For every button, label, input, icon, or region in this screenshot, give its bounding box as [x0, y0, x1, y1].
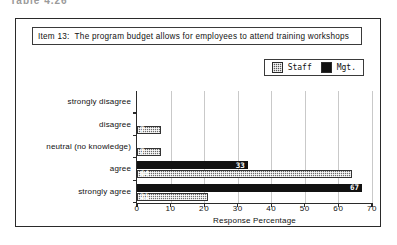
y-category-label: neutral (no knowledge): [46, 143, 131, 151]
bar-row: neutral (no knowledge)7: [137, 136, 372, 158]
bar-staff: 64: [137, 170, 352, 178]
figure-frame: Item 13: The program budget allows for e…: [15, 18, 381, 227]
bar-value-label: 67: [350, 184, 362, 192]
legend-swatch-mgt-icon: [321, 62, 332, 73]
bar-row: agree3364: [137, 158, 372, 180]
x-tick-label: 30: [233, 204, 243, 213]
x-tick-label: 70: [367, 204, 377, 213]
x-tick-label: 40: [266, 204, 276, 213]
item-number-label: Item 13:: [38, 32, 70, 41]
legend-label-mgt: Mgt.: [337, 63, 356, 72]
plot-area: strongly disagreedisagree7neutral (no kn…: [137, 91, 372, 203]
x-tick-label: 20: [199, 204, 209, 213]
x-tick-label: 50: [300, 204, 310, 213]
bar-staff: 21: [137, 193, 208, 201]
bar-staff: 7: [137, 126, 161, 134]
bar-mgt: 67: [137, 184, 362, 192]
item-statement-box: Item 13: The program budget allows for e…: [32, 27, 362, 45]
bar-mgt: 33: [137, 161, 248, 169]
y-category-label: disagree: [99, 121, 131, 129]
x-tick-label: 60: [333, 204, 343, 213]
legend-entry-mgt: Mgt.: [321, 62, 356, 73]
bar-row: strongly disagree: [137, 91, 372, 113]
y-category-label: agree: [110, 165, 131, 173]
bar-value-label: 7: [140, 148, 145, 156]
bar-value-label: 7: [140, 126, 145, 134]
chart-legend: Staff Mgt.: [264, 59, 364, 76]
bar-value-label: 33: [236, 162, 248, 170]
gridline: [372, 91, 373, 203]
page-header-text: Table 4.26: [10, 0, 130, 7]
bar-value-label: 21: [140, 193, 149, 201]
legend-entry-staff: Staff: [272, 62, 312, 73]
x-axis-title: Response Percentage: [213, 216, 296, 225]
bar-value-label: 64: [140, 171, 149, 179]
bar-row: disagree7: [137, 113, 372, 135]
item-statement-text: The program budget allows for employees …: [75, 32, 350, 41]
y-category-label: strongly agree: [78, 188, 131, 196]
bar-staff: 7: [137, 148, 161, 156]
x-tick-label: 10: [166, 204, 176, 213]
bar-row: strongly agree6721: [137, 181, 372, 203]
legend-swatch-staff-icon: [272, 62, 283, 73]
x-tick-label: 0: [134, 204, 139, 213]
y-category-label: strongly disagree: [68, 98, 131, 106]
legend-label-staff: Staff: [288, 63, 312, 72]
